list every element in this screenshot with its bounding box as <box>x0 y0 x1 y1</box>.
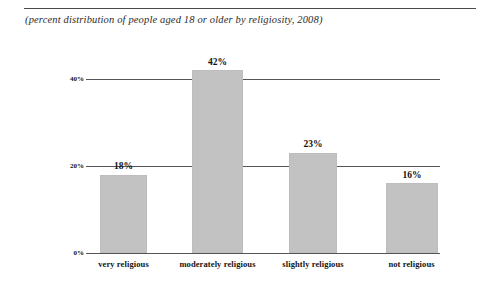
y-tick-dash-0 <box>86 253 92 254</box>
bar-very-religious <box>100 175 147 253</box>
bar-moderately-religious <box>192 70 243 253</box>
bar-value-label-moderately-religious: 42% <box>190 57 245 67</box>
category-label-not-religious: not religious <box>372 259 451 269</box>
gridline-40 <box>92 79 440 80</box>
bar-value-label-slightly-religious: 23% <box>287 139 339 149</box>
y-tick-label-40: 40% <box>60 75 84 83</box>
bar-slightly-religious <box>289 153 337 253</box>
category-label-moderately-religious: moderately religious <box>173 259 262 269</box>
bar-not-religious <box>386 183 438 253</box>
category-label-very-religious: very religious <box>83 259 164 269</box>
y-tick-label-0: 0% <box>60 249 84 257</box>
y-tick-dash-20 <box>86 166 92 167</box>
chart-figure: (percent distribution of people aged 18 … <box>0 0 500 293</box>
bar-value-label-very-religious: 18% <box>98 161 149 171</box>
chart-subtitle: (percent distribution of people aged 18 … <box>25 14 323 25</box>
y-tick-label-20: 20% <box>60 162 84 170</box>
bar-value-label-not-religious: 16% <box>384 170 440 180</box>
category-label-slightly-religious: slightly religious <box>272 259 354 269</box>
y-tick-dash-40 <box>86 79 92 80</box>
gridline-0 <box>92 253 440 254</box>
header-divider <box>24 8 476 9</box>
